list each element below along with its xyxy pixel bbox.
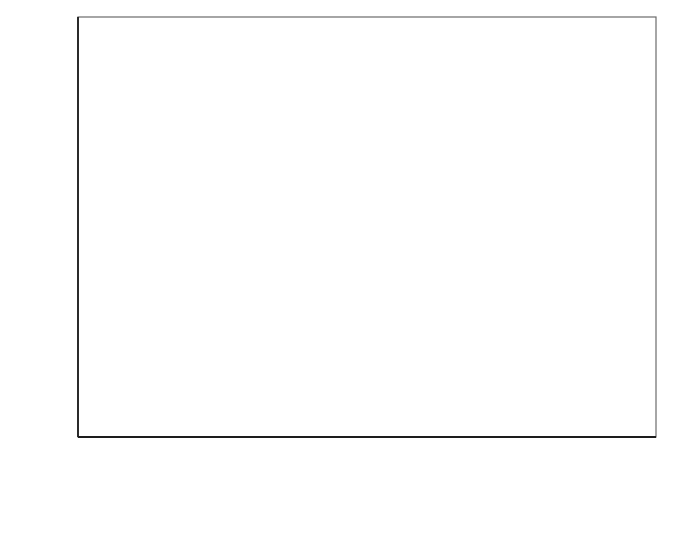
- plot-frame: [78, 17, 656, 437]
- frame-box: [78, 17, 656, 437]
- figure-container: [0, 0, 684, 546]
- activity-diagram-plot: [0, 0, 684, 546]
